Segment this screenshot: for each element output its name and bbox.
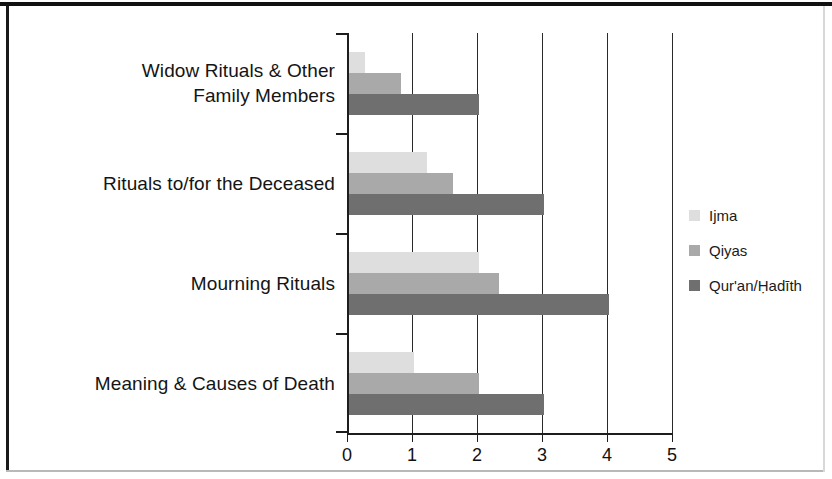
bar-ijma-cat-3 [349,352,414,373]
legend-item-1: Qiyas [689,238,829,263]
gridline-x-3 [542,33,543,433]
x-tick-3 [542,433,543,442]
bar-qiyas-cat-3 [349,373,479,394]
x-tick-1 [412,433,413,442]
y-axis-tick-4 [336,431,347,433]
page-frame-top-border [0,2,832,6]
category-label-0-line-0: Widow Rituals & Other [25,58,335,83]
legend-item-0: Ijma [689,203,829,228]
x-tick-label-0: 0 [327,445,367,466]
x-tick-0 [347,433,348,442]
x-tick-label-2: 2 [457,445,497,466]
chart-legend: IjmaQiyasQur'an/Ḥadīth [689,203,829,308]
legend-swatch-icon-2 [689,280,700,291]
bar-ijma-cat-1 [349,152,427,173]
x-tick-5 [672,433,673,442]
category-label-1: Rituals to/for the Deceased [25,171,335,196]
category-axis-labels: Widow Rituals & OtherFamily MembersRitua… [20,33,335,433]
page-frame-left-border [6,6,9,472]
gridline-x-4 [607,33,608,433]
bar-ijma-cat-2 [349,252,479,273]
bar-qur-an-ad-th-cat-1 [349,194,544,215]
category-label-0-line-1: Family Members [25,83,335,108]
x-tick-label-1: 1 [392,445,432,466]
legend-swatch-icon-0 [689,210,700,221]
x-tick-label-5: 5 [652,445,692,466]
x-tick-label-3: 3 [522,445,562,466]
x-tick-4 [607,433,608,442]
legend-label-0: Ijma [709,207,737,224]
y-axis-tick-2 [336,233,347,235]
gridline-x-5 [672,33,673,433]
legend-label-2: Qur'an/Ḥadīth [709,277,802,294]
bar-ijma-cat-0 [349,52,365,73]
bar-qur-an-ad-th-cat-2 [349,294,609,315]
plot-area: 012345 [347,33,672,433]
bar-qiyas-cat-1 [349,173,453,194]
y-axis-tick-1 [336,133,347,135]
y-axis-tick-0 [336,33,347,35]
x-axis-line [347,433,672,435]
y-axis-tick-3 [336,333,347,335]
legend-label-1: Qiyas [709,242,747,259]
legend-item-2: Qur'an/Ḥadīth [689,273,829,298]
chart-figure: Widow Rituals & OtherFamily MembersRitua… [0,0,832,479]
category-label-2-line-0: Mourning Rituals [25,271,335,296]
x-tick-label-4: 4 [587,445,627,466]
category-label-2: Mourning Rituals [25,271,335,296]
x-tick-2 [477,433,478,442]
category-label-3: Meaning & Causes of Death [25,371,335,396]
bar-qiyas-cat-0 [349,73,401,94]
category-label-3-line-0: Meaning & Causes of Death [25,371,335,396]
page-frame-bottom-border [6,470,824,472]
bar-qur-an-ad-th-cat-3 [349,394,544,415]
category-label-1-line-0: Rituals to/for the Deceased [25,171,335,196]
bar-qur-an-ad-th-cat-0 [349,94,479,115]
category-label-0: Widow Rituals & OtherFamily Members [25,58,335,108]
legend-swatch-icon-1 [689,245,700,256]
bar-qiyas-cat-2 [349,273,499,294]
